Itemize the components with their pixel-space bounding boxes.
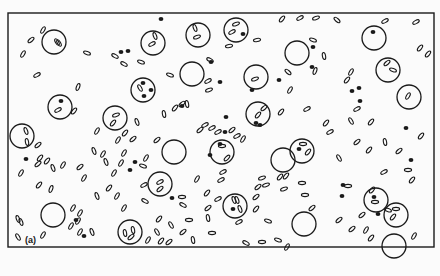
free-granule: [404, 126, 409, 130]
free-organelle: [253, 38, 261, 42]
free-organelle: [264, 218, 272, 223]
free-organelle: [277, 108, 284, 116]
cell: [362, 26, 386, 50]
free-organelle: [358, 211, 366, 218]
free-organelle: [154, 228, 160, 236]
free-organelle: [322, 119, 329, 127]
free-organelle: [194, 175, 200, 183]
free-organelle: [322, 52, 326, 60]
free-organelle: [165, 238, 173, 245]
cell-membrane: [271, 148, 295, 172]
panel-label: (a): [25, 235, 36, 245]
free-organelle: [258, 240, 265, 243]
inner-organelle: [234, 196, 239, 204]
free-organelle: [296, 15, 304, 21]
free-organelle: [417, 132, 424, 140]
free-granule: [133, 160, 138, 164]
free-organelle: [204, 204, 212, 211]
free-organelle: [254, 183, 262, 190]
cell: [292, 212, 316, 236]
cell: [131, 78, 155, 102]
free-organelle: [100, 150, 106, 158]
cell: [285, 41, 309, 65]
free-organelle: [33, 72, 41, 78]
free-organelle: [77, 209, 83, 217]
free-organelle: [282, 172, 289, 180]
cell: [118, 220, 142, 244]
free-organelle: [121, 149, 127, 157]
free-organelle: [242, 240, 250, 246]
free-organelle: [34, 160, 42, 167]
free-granule: [74, 218, 79, 222]
free-organelle: [48, 185, 53, 193]
free-organelle: [258, 175, 266, 180]
free-organelle: [404, 168, 411, 171]
free-organelle: [35, 181, 42, 189]
free-granule: [358, 99, 363, 103]
inner-organelle: [392, 207, 399, 210]
free-organelle: [20, 50, 26, 58]
free-organelle: [118, 159, 124, 167]
inner-granule: [372, 195, 377, 199]
inner-organelle: [54, 107, 62, 113]
free-organelle: [140, 182, 148, 188]
cell-membrane: [382, 234, 406, 258]
free-organelle: [343, 76, 350, 84]
cell: [141, 31, 165, 55]
inner-granule: [241, 32, 246, 36]
free-organelle: [111, 169, 117, 177]
free-organelle: [81, 174, 87, 182]
free-granule: [126, 49, 131, 53]
free-organelle: [185, 100, 189, 108]
free-organelle: [15, 233, 21, 241]
free-granules-layer: [24, 17, 414, 238]
cell: [162, 140, 186, 164]
cell: [186, 23, 210, 47]
free-organelle: [228, 126, 236, 133]
cell: [103, 106, 127, 130]
cell: [180, 62, 204, 86]
inner-organelle: [137, 84, 143, 92]
inner-organelle: [383, 59, 391, 66]
free-organelle: [412, 19, 420, 25]
free-organelle: [68, 222, 74, 230]
cells-layer: [10, 18, 421, 258]
free-organelle: [121, 204, 127, 212]
microscopy-figure: [0, 0, 440, 276]
free-organelle: [219, 169, 227, 175]
free-organelle: [141, 198, 149, 204]
free-organelle: [206, 214, 210, 222]
cell-membrane: [118, 220, 142, 244]
free-organelle: [204, 78, 212, 84]
free-organelle: [75, 83, 80, 91]
free-organelle: [70, 204, 76, 212]
free-organelle: [171, 104, 178, 112]
free-organelle: [60, 161, 66, 169]
free-organelle: [155, 215, 162, 223]
cell: [224, 18, 248, 42]
free-organelle: [208, 231, 215, 234]
free-granule: [159, 17, 164, 21]
cell-membrane: [292, 212, 316, 236]
cell-membrane: [42, 30, 66, 54]
free-organelle: [43, 157, 50, 165]
free-granule: [340, 194, 345, 198]
free-organelle: [301, 193, 308, 196]
free-granule: [311, 45, 316, 49]
free-organelle: [137, 59, 145, 64]
free-organelle: [114, 192, 120, 200]
inner-organelle: [231, 196, 236, 204]
free-organelle: [94, 127, 100, 135]
inner-organelle: [254, 111, 261, 119]
cell-membrane: [41, 203, 65, 227]
free-granule: [341, 183, 346, 187]
free-organelle: [143, 154, 149, 162]
free-organelle: [367, 234, 374, 242]
inner-organelle: [25, 138, 29, 146]
inner-organelle: [232, 21, 240, 26]
free-organelle: [411, 232, 417, 240]
free-organelle: [252, 193, 260, 200]
inner-granule: [142, 94, 147, 98]
free-organelle: [280, 186, 288, 191]
free-organelle: [36, 154, 43, 162]
